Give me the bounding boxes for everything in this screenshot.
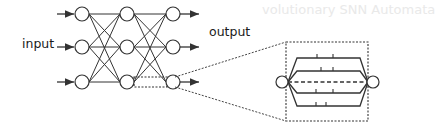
input-label: input	[22, 36, 54, 51]
node-l1-n1	[75, 7, 89, 21]
node-l2-n3	[120, 75, 134, 89]
connections-layer2-layer3	[134, 14, 166, 82]
node-l2-n2	[120, 40, 134, 54]
node-l3-n1	[166, 7, 180, 21]
node-l1-n2	[75, 40, 89, 54]
zoom-inset	[276, 42, 379, 121]
output-arrows	[180, 14, 199, 82]
neuron-nodes	[75, 7, 180, 89]
highlighted-connection	[134, 77, 167, 87]
node-l2-n1	[120, 7, 134, 21]
inset-target-node	[367, 76, 379, 88]
node-l3-n3	[166, 75, 180, 89]
connections-layer1-layer2	[89, 14, 120, 82]
node-l1-n3	[75, 75, 89, 89]
input-arrows	[57, 14, 74, 82]
inset-source-node	[276, 76, 288, 88]
delay-ticks	[316, 54, 333, 106]
node-l3-n2	[166, 40, 180, 54]
output-label: output	[209, 24, 250, 39]
